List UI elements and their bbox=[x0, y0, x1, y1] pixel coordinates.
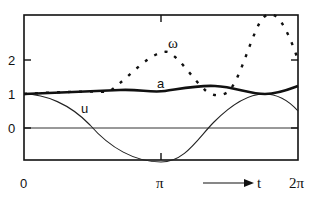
arrow-right-icon bbox=[244, 179, 254, 187]
omega-series-label: ω bbox=[168, 35, 178, 51]
x-label-0: 0 bbox=[20, 176, 27, 191]
chart: 2 1 0 0 π 2π t ω a u bbox=[0, 0, 316, 197]
y-label-0: 0 bbox=[8, 121, 15, 136]
u-series-label: u bbox=[81, 101, 88, 116]
y-label-1: 1 bbox=[8, 87, 15, 102]
a-series-label: a bbox=[157, 76, 165, 91]
x-label-pi: π bbox=[156, 175, 164, 191]
t-axis-label: t bbox=[257, 175, 262, 191]
y-label-2: 2 bbox=[8, 53, 15, 68]
x-label-2pi: 2π bbox=[289, 175, 305, 191]
